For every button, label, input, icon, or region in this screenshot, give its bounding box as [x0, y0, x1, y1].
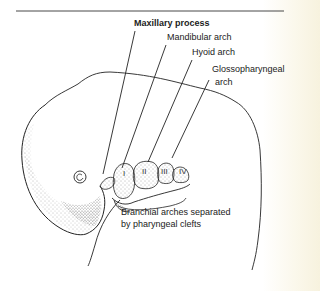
embryo-diagram: Maxillary process Mandibular arch Hyoid …	[0, 0, 297, 291]
numeral-iii: III	[161, 167, 168, 176]
label-hyoid-arch: Hyoid arch	[192, 47, 235, 58]
leader-glosso	[172, 80, 209, 158]
leader-hyoid	[148, 60, 192, 162]
numeral-i: I	[123, 169, 125, 178]
embryo-drawing	[0, 0, 297, 291]
label-glossopharyngeal-line1: Glossopharyngeal	[212, 64, 285, 75]
label-mandibular-arch: Mandibular arch	[167, 32, 232, 43]
label-clefts-line2: by pharyngeal clefts	[121, 219, 201, 230]
label-glossopharyngeal-line2: arch	[215, 77, 233, 88]
label-maxillary-process: Maxillary process	[134, 18, 210, 29]
numeral-ii: II	[142, 167, 146, 176]
leader-mandibular	[122, 45, 166, 168]
leader-maxillary	[103, 31, 135, 174]
label-clefts-line1: Branchial arches separated	[121, 207, 231, 218]
head-outline	[45, 72, 236, 105]
body-outline	[236, 102, 261, 270]
eye-icon	[74, 171, 86, 183]
numeral-iv: IV	[179, 167, 187, 176]
